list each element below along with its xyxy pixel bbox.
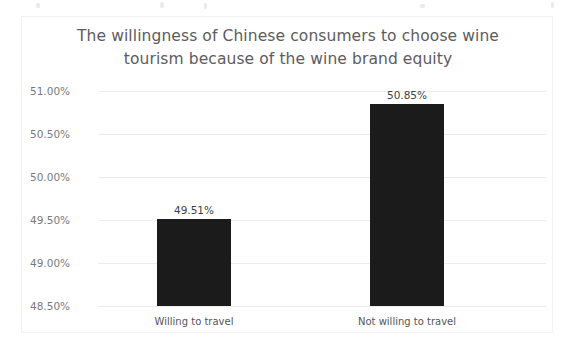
bar-value-label: 49.51% xyxy=(149,204,239,216)
gridline xyxy=(98,91,546,92)
x-axis-category-label: Willing to travel xyxy=(124,316,264,328)
y-axis-tick-label: 49.00% xyxy=(30,258,92,269)
plot-area: 49.51% 50.85% Willing to travel Not will… xyxy=(98,91,546,306)
y-axis: 51.00% 50.50% 50.00% 49.50% 49.00% 48.50… xyxy=(30,91,92,306)
y-axis-tick-label: 50.50% xyxy=(30,129,92,140)
y-axis-tick-label: 48.50% xyxy=(30,301,92,312)
bar-value-label: 50.85% xyxy=(362,89,452,101)
y-axis-tick-label: 49.50% xyxy=(30,215,92,226)
gridline xyxy=(98,177,546,178)
y-axis-tick-label: 50.00% xyxy=(30,172,92,183)
chart-title: The willingness of Chinese consumers to … xyxy=(22,25,554,71)
scan-artifacts xyxy=(0,0,569,12)
bar-willing-to-travel[interactable] xyxy=(157,219,231,306)
x-axis-category-label: Not willing to travel xyxy=(337,316,477,328)
chart-container: The willingness of Chinese consumers to … xyxy=(21,16,553,333)
gridline xyxy=(98,306,546,307)
gridline xyxy=(98,134,546,135)
y-axis-tick-label: 51.00% xyxy=(30,86,92,97)
bar-not-willing-to-travel[interactable] xyxy=(370,104,444,306)
